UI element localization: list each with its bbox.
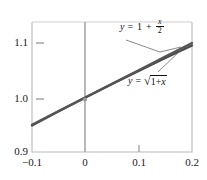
y-tick-label-1-1: 1.1 bbox=[2, 37, 28, 48]
radical-expression: √ 1+x bbox=[144, 75, 167, 88]
linear-equals: = bbox=[126, 22, 134, 32]
curve-annotation-sqrt: y = √ 1+x bbox=[128, 75, 167, 88]
x-tick-label-0-1: 0.1 bbox=[124, 157, 154, 168]
radicand: 1+x bbox=[150, 75, 167, 88]
x-tick-label-0: 0 bbox=[71, 157, 99, 168]
linear-plus: + bbox=[145, 22, 153, 32]
figure-container: 1.1 1.0 0.9 −0.1 0 0.1 0.2 y = 1 + x 2 y… bbox=[0, 0, 207, 180]
linear-y: y bbox=[120, 22, 124, 32]
linear-one: 1 bbox=[136, 22, 143, 32]
radicand-x: x bbox=[161, 76, 165, 87]
x-tick-label-0-2: 0.2 bbox=[177, 157, 207, 168]
sqrt-equals: = bbox=[134, 76, 142, 86]
leader-line-linear bbox=[126, 40, 181, 52]
x-tick-label-neg-0-1: −0.1 bbox=[14, 157, 50, 168]
origin-marker bbox=[83, 97, 87, 101]
y-tick-label-1-0: 1.0 bbox=[2, 93, 28, 104]
plot-canvas bbox=[0, 0, 207, 180]
fraction-denominator: 2 bbox=[156, 27, 164, 35]
fraction-x-over-2: x 2 bbox=[156, 18, 164, 35]
sqrt-y: y bbox=[128, 76, 132, 86]
fraction-numerator: x bbox=[156, 18, 164, 26]
curve-linear bbox=[32, 43, 192, 125]
y-tick-marks bbox=[36, 43, 44, 99]
plot-frame bbox=[32, 22, 192, 152]
curve-annotation-linear: y = 1 + x 2 bbox=[120, 18, 164, 35]
